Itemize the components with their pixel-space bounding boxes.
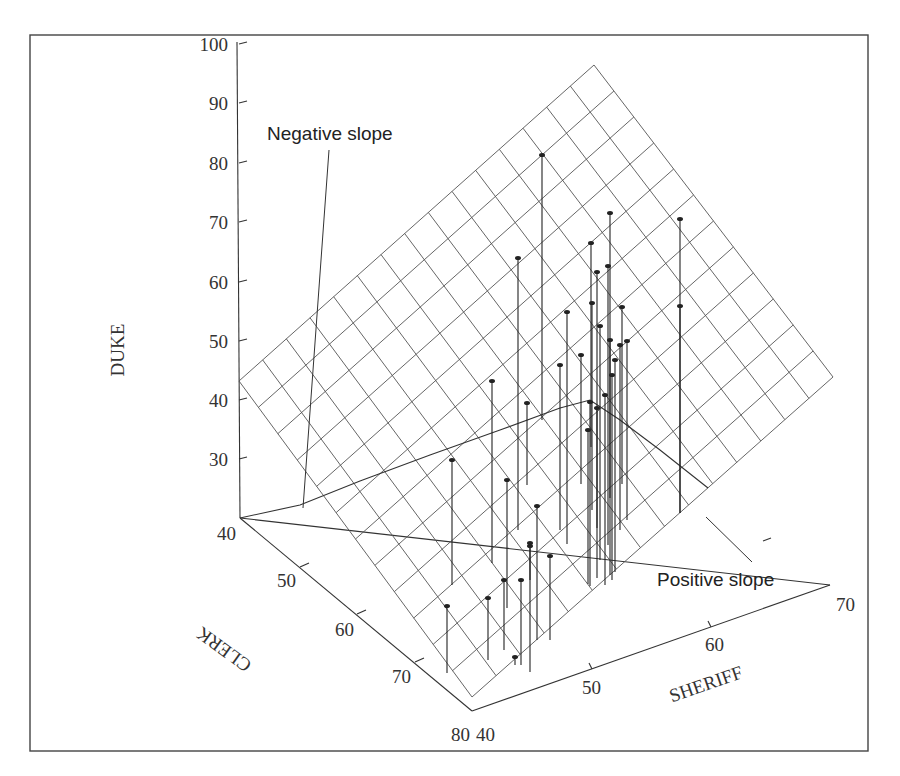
clerk-tick bbox=[415, 658, 424, 662]
data-point bbox=[449, 458, 455, 462]
positive-slope-annotation: Positive slope bbox=[657, 569, 774, 590]
duke-tick-label: 30 bbox=[209, 449, 228, 470]
data-point bbox=[677, 304, 683, 308]
data-point bbox=[527, 544, 533, 548]
duke-tick bbox=[239, 161, 247, 163]
clerk-axis-line bbox=[240, 518, 472, 711]
x-axis-title: CLERK bbox=[192, 623, 255, 677]
data-point bbox=[587, 400, 593, 404]
data-point bbox=[605, 264, 611, 268]
data-point bbox=[619, 305, 625, 309]
plane-grid-line bbox=[499, 149, 736, 462]
duke-tick bbox=[239, 220, 247, 222]
data-point bbox=[512, 655, 518, 659]
plane-grid-line bbox=[523, 128, 761, 441]
sheriff-tick-label: 50 bbox=[582, 677, 601, 698]
data-point bbox=[489, 379, 495, 383]
data-point bbox=[585, 428, 591, 432]
sheriff-axis-line bbox=[472, 585, 830, 711]
negative-slope-annotation: Negative slope bbox=[267, 123, 393, 144]
duke-axis-line bbox=[237, 42, 240, 518]
positive-slope-leader bbox=[706, 517, 752, 562]
data-point bbox=[534, 504, 540, 508]
z-axis-title: DUKE bbox=[107, 324, 128, 377]
duke-tick-label: 80 bbox=[209, 153, 228, 174]
back-edge-tick bbox=[763, 538, 771, 541]
plane-grid-line bbox=[394, 273, 753, 592]
clerk-tick bbox=[300, 563, 309, 567]
data-point bbox=[515, 256, 521, 260]
data-point bbox=[539, 153, 545, 157]
duke-tick-label: 40 bbox=[209, 390, 228, 411]
data-point bbox=[594, 406, 600, 410]
plane-grid-line bbox=[278, 117, 634, 434]
data-point bbox=[564, 310, 570, 314]
plane-grid-line bbox=[428, 212, 664, 526]
clerk-tick bbox=[357, 610, 366, 614]
sheriff-tick-label: 40 bbox=[476, 724, 495, 745]
clerk-tick-label: 70 bbox=[392, 666, 411, 687]
data-point bbox=[518, 578, 524, 582]
sheriff-tick-label: 60 bbox=[705, 634, 724, 655]
plane-grid-line bbox=[547, 107, 785, 420]
duke-tick-label: 100 bbox=[200, 34, 229, 55]
data-point bbox=[602, 393, 608, 397]
plane-grid-line bbox=[472, 377, 833, 697]
clerk-tick-label: 50 bbox=[277, 570, 296, 591]
clerk-tick-label: 60 bbox=[335, 619, 354, 640]
duke-tick bbox=[239, 280, 247, 282]
plane-grid-line bbox=[263, 360, 496, 676]
negative-slope-leader bbox=[303, 150, 329, 508]
chart-frame bbox=[30, 35, 868, 751]
slope-curve bbox=[240, 400, 708, 518]
data-point bbox=[524, 401, 530, 405]
plane-grid-line bbox=[452, 191, 689, 505]
data-point bbox=[588, 241, 594, 245]
sheriff-tick bbox=[589, 663, 592, 669]
intersection-curve bbox=[240, 400, 708, 518]
clerk-tick-label: 40 bbox=[217, 523, 236, 544]
data-point bbox=[557, 363, 563, 367]
duke-tick-label: 50 bbox=[209, 331, 228, 352]
data-point bbox=[504, 478, 510, 482]
data-point bbox=[578, 353, 584, 357]
data-point bbox=[594, 270, 600, 274]
duke-tick bbox=[239, 42, 247, 44]
plane-grid-line bbox=[310, 318, 544, 633]
plane-grid-line bbox=[570, 86, 809, 398]
data-point bbox=[612, 358, 618, 362]
duke-tick bbox=[239, 457, 247, 459]
plane-grid-line bbox=[336, 195, 693, 513]
data-point bbox=[501, 578, 507, 582]
duke-tick-label: 70 bbox=[209, 212, 228, 233]
plane-grid-line bbox=[239, 65, 594, 381]
plane-grid-line bbox=[594, 65, 833, 377]
data-point bbox=[607, 211, 613, 215]
z-axis bbox=[237, 42, 247, 518]
duke-tick bbox=[239, 398, 247, 400]
data-point bbox=[589, 301, 595, 305]
plane-grid-line bbox=[239, 381, 472, 697]
sheriff-tick bbox=[708, 621, 711, 627]
duke-tick-label: 60 bbox=[209, 272, 228, 293]
data-point bbox=[677, 217, 683, 221]
plane-grid-line bbox=[356, 221, 714, 539]
plane-grid-line bbox=[357, 276, 592, 591]
plane-grid-line bbox=[476, 170, 713, 483]
data-point bbox=[597, 324, 603, 328]
sheriff-tick-label: 70 bbox=[836, 594, 855, 615]
data-point bbox=[607, 338, 613, 342]
data-point bbox=[547, 554, 553, 558]
y-axis-title: SHERIFF bbox=[667, 662, 746, 707]
data-point bbox=[609, 373, 615, 377]
data-point bbox=[444, 604, 450, 608]
duke-tick-label: 90 bbox=[209, 93, 228, 114]
data-point bbox=[485, 596, 491, 600]
duke-tick bbox=[239, 339, 247, 341]
data-point bbox=[617, 343, 623, 347]
clerk-tick-label: 80 bbox=[451, 724, 470, 745]
plane-grid-line bbox=[334, 297, 569, 612]
duke-tick bbox=[239, 101, 247, 103]
data-point-stems bbox=[444, 153, 683, 673]
data-point bbox=[624, 339, 630, 343]
